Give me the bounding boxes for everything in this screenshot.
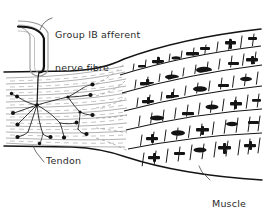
muscle-fibre-bands: [120, 34, 262, 167]
leader-muscle: [199, 166, 210, 180]
label-muscle-fibres: Muscle fibres: [212, 176, 246, 212]
label-tendon: Tendon: [46, 155, 81, 166]
leader-nerve: [40, 18, 52, 30]
label-nerve-line2: nerve fibre: [55, 62, 140, 73]
muscle-fibre-band: [142, 138, 260, 167]
nerve-axon: [18, 27, 44, 106]
muscle-fibre-band: [138, 94, 261, 131]
muscle-fibre-band: [136, 72, 258, 113]
label-group-ib-afferent-nerve-fibre: Group IB afferent nerve fibre: [55, 7, 140, 84]
label-muscle-line1: Muscle: [212, 198, 246, 209]
label-nerve-line1: Group IB afferent: [55, 29, 140, 40]
leader-tendon: [33, 146, 44, 162]
